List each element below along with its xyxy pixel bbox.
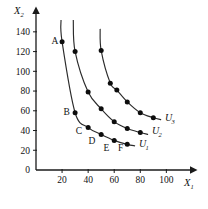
data-point-marker [125,99,130,104]
point-label-f: F [118,143,123,153]
data-point-marker [99,132,104,137]
data-point-marker [108,81,113,86]
x-tick-label: 40 [83,175,93,185]
data-point-marker [86,125,91,130]
y-tick-label: 60 [21,106,31,116]
x-tick-label: 60 [109,175,119,185]
y-tick-label: 40 [21,126,31,136]
data-point-marker [125,126,130,131]
data-point-marker [138,110,143,115]
x-axis-label-subscript: 1 [191,183,194,190]
point-label-a: A [51,36,58,46]
data-point-marker [112,119,117,124]
axes [36,13,191,170]
x-axis-ticks: 20406080100 [57,169,173,185]
point-label-e: E [103,143,109,153]
y-tick-label: 120 [16,47,31,57]
y-tick-label: 140 [16,27,31,37]
data-point-markers [60,39,156,147]
curve-label-subscript: 1 [145,144,148,151]
y-axis-ticks: 020406080100120140 [16,27,37,175]
data-point-marker [99,48,104,53]
indifference-curve-chart: 020406080100120140 20406080100 ABCDEF U1… [0,0,208,209]
data-point-marker [112,138,117,143]
point-label-d: D [89,136,96,146]
point-label-c: C [76,126,82,136]
axis-titles: X 2 X 1 [13,5,194,190]
point-label-b: B [63,107,69,117]
data-point-marker [151,115,156,120]
data-point-marker [73,49,78,54]
data-point-marker [114,88,119,93]
data-point-marker [86,90,91,95]
chart-canvas: 020406080100120140 20406080100 ABCDEF U1… [0,0,208,209]
y-tick-label: 80 [21,86,31,96]
curve-labels: U1U2U3 [139,112,176,152]
indifference-curve [73,20,148,134]
y-axis-label-subscript: 2 [21,11,25,18]
x-tick-label: 80 [136,175,146,185]
data-point-marker [99,106,104,111]
y-tick-label: 0 [25,165,30,175]
y-tick-label: 20 [21,146,31,156]
indifference-curve [100,29,161,120]
data-point-marker [73,110,78,115]
x-tick-label: 20 [57,175,67,185]
y-tick-label: 100 [16,67,31,77]
x-tick-label: 100 [159,175,174,185]
data-point-marker [60,39,65,44]
data-point-marker [138,130,143,135]
curve-label-subscript: 2 [159,131,163,138]
curve-label-subscript: 3 [171,118,176,125]
data-point-marker [125,142,130,147]
